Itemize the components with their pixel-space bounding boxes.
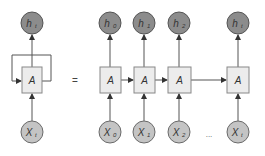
input-subscript: 1 bbox=[147, 132, 150, 138]
cell-label: A bbox=[140, 75, 148, 86]
input-label: X bbox=[172, 127, 180, 138]
output-subscript: 2 bbox=[181, 23, 186, 29]
output-node-h2 bbox=[168, 12, 190, 34]
cell-label: A bbox=[234, 75, 242, 86]
output-label: h bbox=[138, 18, 144, 29]
timestep-t: h t A X t bbox=[227, 12, 249, 143]
output-node-h0 bbox=[99, 12, 121, 34]
input-label: X bbox=[137, 127, 145, 138]
output-label: h bbox=[173, 18, 179, 29]
output-subscript: 1 bbox=[147, 23, 150, 29]
ellipsis: ... bbox=[206, 130, 213, 139]
timestep-2: h 2 A X 2 bbox=[168, 12, 191, 143]
cell-label: A bbox=[28, 75, 36, 86]
timestep-1: h 1 A X 1 bbox=[133, 12, 155, 143]
unrolled-rnn: h 0 A X 0 h 1 A X 1 h 2 bbox=[99, 12, 249, 143]
input-subscript: 2 bbox=[181, 132, 186, 138]
cell-label: A bbox=[106, 75, 114, 86]
timestep-0: h 0 A X 0 bbox=[99, 12, 121, 143]
folded-rnn: h t A X t bbox=[12, 12, 51, 143]
input-label: X bbox=[231, 127, 239, 138]
output-label: h bbox=[26, 18, 32, 29]
output-node-h1 bbox=[133, 12, 155, 34]
output-label: h bbox=[104, 18, 110, 29]
rnn-unrolled-diagram: h t A X t = h 0 A X 0 bbox=[0, 0, 265, 156]
input-label: X bbox=[25, 127, 33, 138]
output-node-ht bbox=[227, 12, 249, 34]
cell-label: A bbox=[175, 75, 183, 86]
output-node-ht bbox=[21, 12, 43, 34]
output-label: h bbox=[232, 18, 238, 29]
input-label: X bbox=[103, 127, 111, 138]
equals-sign: = bbox=[72, 75, 78, 86]
